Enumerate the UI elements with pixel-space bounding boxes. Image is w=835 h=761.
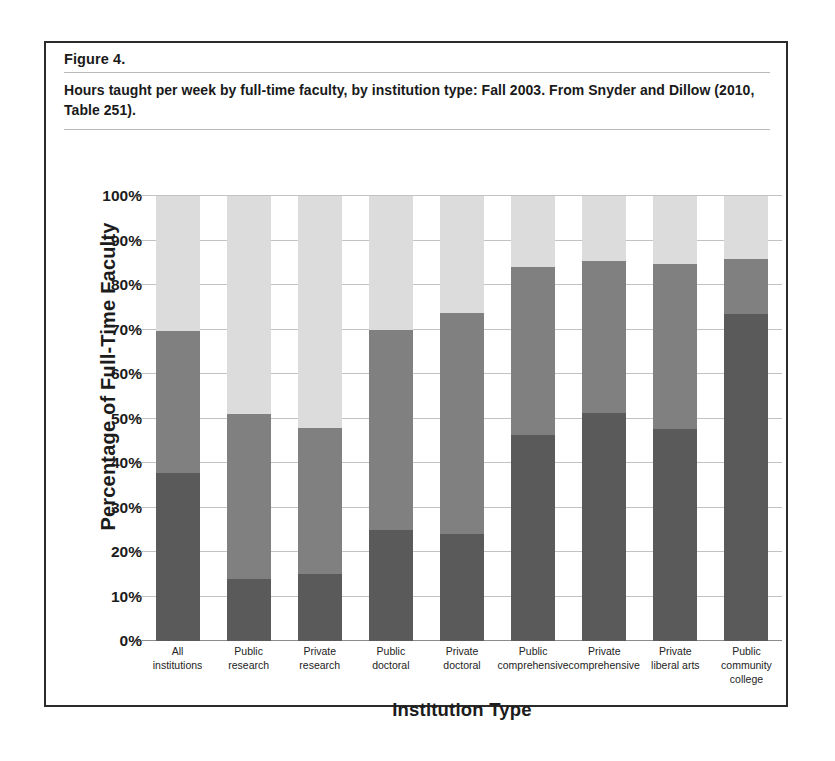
y-axis-tick-label: 10% [84, 588, 142, 606]
figure-caption-text: Hours taught per week by full-time facul… [64, 73, 770, 129]
bar-segment[interactable] [582, 261, 626, 413]
bar-segment[interactable] [653, 196, 697, 264]
y-axis-tick-mark [135, 196, 142, 197]
bar-segment[interactable] [227, 196, 271, 414]
bar-segment[interactable] [724, 314, 768, 641]
y-axis-tick-label: 40% [84, 454, 142, 472]
y-axis-tick-label: 0% [84, 632, 142, 650]
plot-area [142, 196, 782, 641]
y-axis-tick-mark [135, 597, 142, 598]
bar-segment[interactable] [369, 530, 413, 641]
bar-segment[interactable] [298, 428, 342, 574]
figure-number: Figure 4. [64, 51, 770, 72]
bar-segment[interactable] [653, 429, 697, 641]
bar-group[interactable] [369, 196, 413, 641]
y-axis-tick-label: 100% [84, 187, 142, 205]
y-axis-ticks: 0%10%20%30%40%50%60%70%80%90%100% [66, 196, 142, 641]
bar-group[interactable] [298, 196, 342, 641]
figure-caption-block: Figure 4. Hours taught per week by full-… [64, 51, 770, 130]
y-axis-tick-label: 80% [84, 276, 142, 294]
y-axis-tick-label: 60% [84, 365, 142, 383]
bar-segment[interactable] [298, 196, 342, 428]
y-axis-tick-mark [135, 641, 142, 642]
bar-segment[interactable] [156, 196, 200, 331]
bar-segment[interactable] [511, 435, 555, 641]
bar-segment[interactable] [511, 267, 555, 435]
x-axis-title: Institution Type [142, 699, 782, 721]
bar-group[interactable] [511, 196, 555, 641]
y-axis-tick-mark [135, 463, 142, 464]
bar-group[interactable] [227, 196, 271, 641]
x-axis-tick-labels: AllinstitutionsPublicresearchPrivaterese… [142, 645, 782, 707]
bar-segment[interactable] [440, 196, 484, 313]
bar-segment[interactable] [369, 196, 413, 330]
y-axis-tick-mark [135, 330, 142, 331]
bar-segment[interactable] [582, 196, 626, 261]
y-axis-tick-label: 20% [84, 543, 142, 561]
bar-group[interactable] [653, 196, 697, 641]
bar-group[interactable] [440, 196, 484, 641]
x-axis-tick-label: Publiccommunitycollege [703, 645, 789, 687]
bar-group[interactable] [156, 196, 200, 641]
y-axis-tick-label: 50% [84, 410, 142, 428]
y-axis-tick-mark [135, 552, 142, 553]
bar-segment[interactable] [724, 196, 768, 259]
bar-segment[interactable] [511, 196, 555, 267]
bar-segment[interactable] [298, 574, 342, 641]
bar-segment[interactable] [724, 259, 768, 314]
bar-segment[interactable] [156, 331, 200, 473]
bar-segment[interactable] [440, 313, 484, 535]
y-axis-tick-mark [135, 419, 142, 420]
y-axis-tick-mark [135, 374, 142, 375]
caption-divider-bottom [64, 129, 770, 130]
bar-segment[interactable] [653, 264, 697, 430]
bar-segment[interactable] [582, 413, 626, 641]
bar-group[interactable] [582, 196, 626, 641]
y-axis-tick-mark [135, 241, 142, 242]
chart-canvas: Percentage of Full-Time Faculty 0%10%20%… [46, 147, 786, 705]
bar-group[interactable] [724, 196, 768, 641]
bar-segment[interactable] [227, 414, 271, 579]
bar-segment[interactable] [440, 534, 484, 641]
figure-frame: Figure 4. Hours taught per week by full-… [44, 41, 788, 707]
y-axis-tick-label: 70% [84, 321, 142, 339]
bar-segment[interactable] [369, 330, 413, 530]
y-axis-tick-label: 90% [84, 232, 142, 250]
y-axis-tick-mark [135, 508, 142, 509]
y-axis-tick-mark [135, 285, 142, 286]
bar-segment[interactable] [156, 473, 200, 641]
y-axis-tick-label: 30% [84, 499, 142, 517]
bar-segment[interactable] [227, 579, 271, 641]
